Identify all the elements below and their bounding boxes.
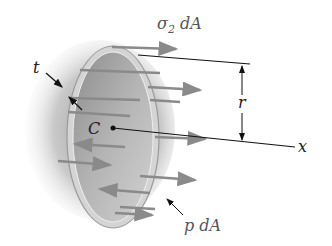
radius-top-line xyxy=(138,55,250,64)
shell-inside xyxy=(73,52,153,222)
diagram-canvas: σ2 dA t r C x p dA xyxy=(0,0,332,246)
radius-label: r xyxy=(238,93,247,112)
pressure-label: p dA xyxy=(184,216,221,235)
center-label: C xyxy=(88,119,100,138)
thickness-label: t xyxy=(33,58,40,77)
pressure-pointer xyxy=(167,199,183,215)
axis-label: x xyxy=(298,137,307,156)
center-point xyxy=(111,126,116,131)
stress-label: σ2 dA xyxy=(157,14,202,36)
